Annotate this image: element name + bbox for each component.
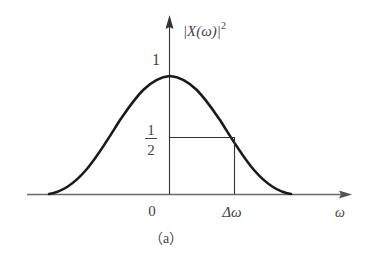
half-fraction-denominator: 2 (147, 142, 155, 158)
half-fraction-numerator: 1 (147, 122, 155, 138)
figure-caption: （a） (149, 231, 183, 246)
y-axis (166, 15, 174, 195)
y-axis-arrow-icon (166, 15, 174, 29)
half-value-fraction: 1 2 (145, 122, 157, 158)
y-axis-label-exponent: 2 (221, 20, 226, 31)
delta-omega-label: Δω (221, 204, 241, 220)
half-power-guides (170, 138, 236, 195)
peak-value-label: 1 (152, 51, 160, 68)
y-axis-label-base: |X(ω)| (183, 23, 221, 40)
power-spectrum-diagram: |X(ω)|2 1 1 2 0 Δω ω （a） (0, 0, 370, 258)
x-axis (27, 191, 352, 199)
origin-label: 0 (148, 203, 156, 219)
y-axis-label: |X(ω)|2 (183, 20, 226, 40)
x-axis-label: ω (335, 205, 345, 220)
